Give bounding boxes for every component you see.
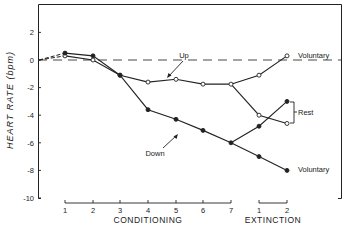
voluntary-top-annotation: Voluntary	[298, 51, 330, 60]
plot-frame	[39, 5, 342, 199]
filled-circle-marker	[257, 124, 261, 128]
open-circle-marker	[257, 73, 261, 77]
y-tick-label: -8	[27, 166, 34, 175]
filled-circle-marker	[229, 141, 233, 145]
x-tick-label: 1	[257, 206, 261, 215]
y-tick-label: 0	[30, 56, 34, 65]
y-tick-label: 2	[30, 28, 34, 37]
x-tick-label: 1	[63, 206, 67, 215]
rest-annotation: Rest	[298, 108, 314, 117]
open-circle-marker	[146, 80, 150, 84]
open-circle-marker	[257, 113, 261, 117]
open-circle-marker	[285, 121, 289, 125]
up-annotation: Up	[179, 51, 189, 60]
rest-bracket	[290, 102, 297, 123]
filled-circle-marker	[118, 73, 122, 77]
series-leadin	[39, 53, 65, 60]
voluntary-bottom-annotation: Voluntary	[298, 165, 330, 174]
filled-circle-marker	[201, 128, 205, 132]
filled-circle-marker	[285, 99, 289, 103]
x-tick-label: 2	[91, 206, 95, 215]
down-annotation: Down	[145, 149, 164, 158]
down-arrowhead	[174, 134, 179, 139]
open-circle-marker	[201, 82, 205, 86]
x-tick-label: 2	[285, 206, 289, 215]
x-tick-label: 5	[174, 206, 178, 215]
filled-circle-marker	[285, 168, 289, 172]
y-tick-label: -6	[27, 139, 34, 148]
series-line	[231, 101, 287, 142]
open-circle-marker	[285, 54, 289, 58]
series-line	[65, 53, 231, 143]
x-axis-ticks: 123456712	[63, 200, 289, 215]
x-tick-label: 7	[229, 206, 233, 215]
y-tick-label: -2	[27, 83, 34, 92]
open-circle-marker	[229, 82, 233, 86]
x-tick-label: 6	[201, 206, 205, 215]
filled-circle-marker	[174, 117, 178, 121]
open-circle-marker	[174, 77, 178, 81]
x-tick-label: 3	[118, 206, 122, 215]
open-circle-marker	[91, 58, 95, 62]
filled-circle-marker	[91, 54, 95, 58]
heart-rate-chart: 20-2-4-6-8-10 123456712 HEART RATE (bpm)…	[0, 0, 344, 229]
y-tick-label: -4	[27, 111, 34, 120]
y-tick-label: -10	[23, 194, 34, 203]
filled-circle-marker	[63, 51, 67, 55]
conditioning-label: CONDITIONING	[114, 215, 183, 225]
x-tick-label: 4	[146, 206, 150, 215]
extinction-label: EXTINCTION	[245, 215, 301, 225]
y-axis-label: HEART RATE (bpm)	[5, 51, 15, 149]
filled-circle-marker	[146, 108, 150, 112]
filled-circle-marker	[257, 155, 261, 159]
